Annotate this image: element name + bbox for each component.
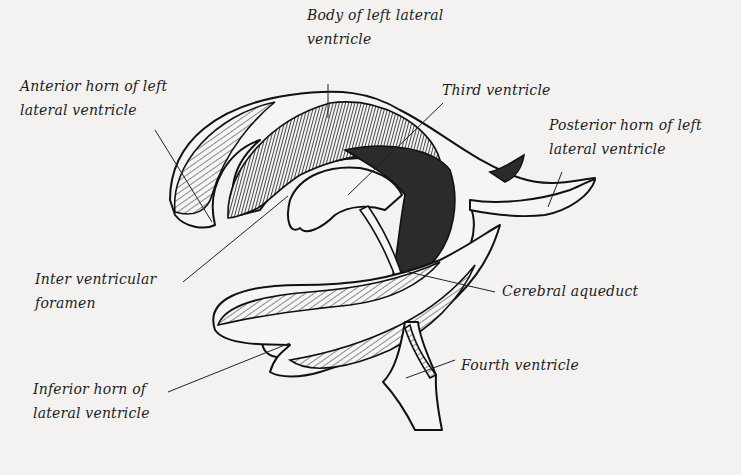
label-inferior-horn: Inferior horn of lateral ventricle	[33, 377, 150, 425]
label-cerebral-aqueduct: Cerebral aqueduct	[502, 279, 638, 303]
label-line: Inferior horn of	[33, 377, 150, 401]
label-line: lateral ventricle	[33, 401, 150, 425]
label-interventricular-foramen: Inter ventricular foramen	[35, 267, 156, 315]
third-ventricle-shape	[288, 167, 402, 231]
label-line: Cerebral aqueduct	[502, 279, 638, 303]
label-line: Posterior horn of left	[549, 113, 702, 137]
label-line: lateral ventricle	[20, 98, 167, 122]
label-line: lateral ventricle	[549, 137, 702, 161]
label-body: Body of left lateral ventricle	[307, 3, 443, 51]
label-line: ventricle	[307, 27, 443, 51]
label-anterior-horn: Anterior horn of left lateral ventricle	[20, 74, 167, 122]
label-line: Inter ventricular	[35, 267, 156, 291]
diagram-stage: Anterior horn of left lateral ventricle …	[0, 0, 741, 475]
label-line: Body of left lateral	[307, 3, 443, 27]
label-third-ventricle: Third ventricle	[442, 78, 551, 102]
label-line: Fourth ventricle	[461, 353, 579, 377]
label-line: Third ventricle	[442, 78, 551, 102]
label-line: Anterior horn of left	[20, 74, 167, 98]
label-posterior-horn: Posterior horn of left lateral ventricle	[549, 113, 702, 161]
label-fourth-ventricle: Fourth ventricle	[461, 353, 579, 377]
label-line: foramen	[35, 291, 156, 315]
